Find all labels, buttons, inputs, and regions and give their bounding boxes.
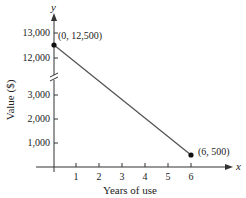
y-axis-var: y: [50, 1, 56, 13]
x-ticks: 1 2 3 4 5 6: [74, 163, 194, 182]
data-point-end: [188, 152, 193, 157]
point-label-start: (0, 12,500): [58, 30, 102, 42]
depreciation-line: [54, 45, 191, 155]
y-tick-3000: 3,000: [28, 89, 51, 100]
x-tick-1: 1: [74, 171, 79, 182]
x-tick-3: 3: [120, 171, 125, 182]
y-tick-1000: 1,000: [28, 137, 51, 148]
x-axis-title: Years of use: [103, 184, 157, 196]
x-tick-5: 5: [166, 171, 171, 182]
data-point-start: [51, 42, 56, 47]
x-axis-var: x: [235, 160, 241, 172]
x-axis-arrow-icon: [225, 164, 233, 170]
x-tick-6: 6: [189, 171, 194, 182]
y-axis-arrow-icon: [51, 13, 57, 21]
chart-canvas: y x 13,000 12,000 3,000 2,000 1,000 1 2 …: [0, 0, 246, 198]
x-tick-2: 2: [97, 171, 102, 182]
y-axis-title: Value ($): [4, 79, 17, 120]
y-tick-2000: 2,000: [28, 113, 51, 124]
point-label-end: (6, 500): [198, 146, 230, 158]
x-tick-4: 4: [143, 171, 148, 182]
y-tick-13000: 13,000: [23, 27, 51, 38]
y-tick-12000: 12,000: [23, 52, 51, 63]
